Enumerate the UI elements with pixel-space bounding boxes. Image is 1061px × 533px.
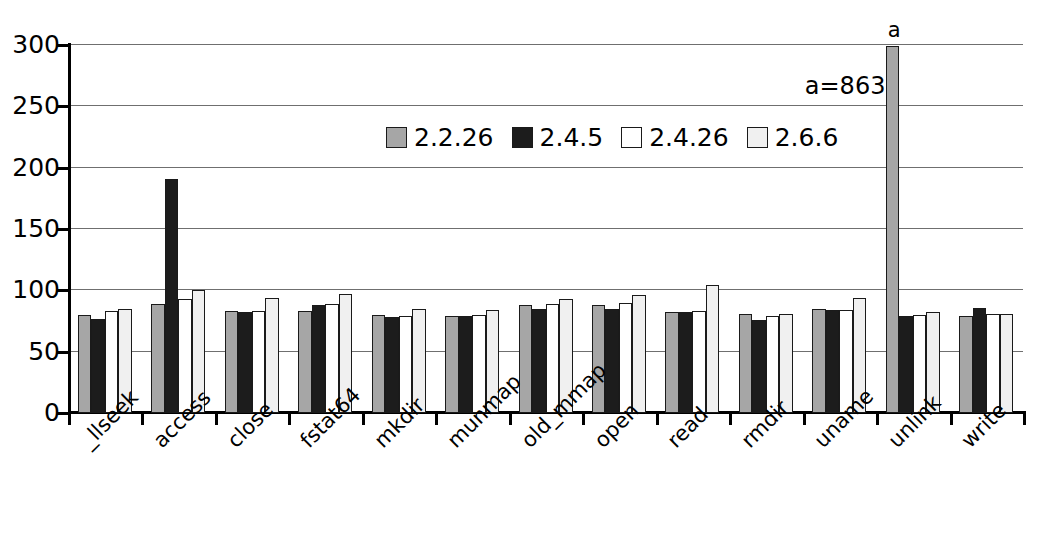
bar-group bbox=[372, 45, 426, 413]
legend-item: 2.4.26 bbox=[621, 125, 729, 150]
y-tick-label: 0 bbox=[0, 400, 60, 425]
legend-label: 2.4.5 bbox=[540, 125, 604, 150]
bar bbox=[252, 311, 266, 413]
annotation-note: a=863 bbox=[805, 74, 886, 98]
bar-group bbox=[886, 45, 940, 413]
bar bbox=[298, 311, 312, 413]
bar bbox=[78, 315, 92, 413]
annotation-marker: a bbox=[888, 20, 901, 41]
x-tick-mark bbox=[435, 414, 438, 425]
y-tick-label: 150 bbox=[0, 216, 60, 241]
x-tick-mark bbox=[876, 414, 879, 425]
x-tick-mark bbox=[582, 414, 585, 425]
x-tick-mark bbox=[68, 414, 71, 425]
bar bbox=[886, 46, 900, 413]
x-tick-mark bbox=[656, 414, 659, 425]
bar bbox=[385, 317, 399, 413]
bar bbox=[812, 309, 826, 413]
legend-item: 2.2.26 bbox=[386, 125, 494, 150]
bar bbox=[679, 312, 693, 413]
legend: 2.2.262.4.52.4.262.6.6 bbox=[386, 125, 856, 150]
x-tick-mark bbox=[509, 414, 512, 425]
y-tick-label: 300 bbox=[0, 32, 60, 57]
y-tick-label: 50 bbox=[0, 339, 60, 364]
x-tick-mark bbox=[362, 414, 365, 425]
bar bbox=[779, 314, 793, 413]
bar-group bbox=[151, 45, 205, 413]
bar-group bbox=[812, 45, 866, 413]
legend-swatch-icon bbox=[386, 127, 407, 148]
bar-group bbox=[519, 45, 573, 413]
bar bbox=[165, 179, 179, 413]
y-tick-label: 200 bbox=[0, 155, 60, 180]
bar-group bbox=[298, 45, 352, 413]
x-tick-mark bbox=[141, 414, 144, 425]
x-tick-mark bbox=[1023, 414, 1026, 425]
bar-group bbox=[739, 45, 793, 413]
bar bbox=[959, 316, 973, 413]
legend-label: 2.2.26 bbox=[414, 125, 494, 150]
legend-item: 2.6.6 bbox=[747, 125, 839, 150]
bar bbox=[151, 304, 165, 413]
bar bbox=[619, 303, 633, 413]
bar-group bbox=[665, 45, 719, 413]
y-tick-label: 100 bbox=[0, 277, 60, 302]
bar bbox=[445, 316, 459, 413]
bar bbox=[238, 312, 252, 413]
legend-swatch-icon bbox=[747, 127, 768, 148]
bar bbox=[459, 316, 473, 413]
bar-group bbox=[592, 45, 646, 413]
bar-group bbox=[445, 45, 499, 413]
bar bbox=[605, 309, 619, 413]
bar bbox=[372, 315, 386, 413]
bar bbox=[265, 298, 279, 413]
bar bbox=[665, 312, 679, 413]
x-tick-mark bbox=[803, 414, 806, 425]
legend-swatch-icon bbox=[512, 127, 533, 148]
bar-chart: 050100150200250300 _llseekaccessclosefst… bbox=[0, 0, 1061, 533]
y-tick-label: 250 bbox=[0, 93, 60, 118]
bar bbox=[706, 285, 720, 413]
bar bbox=[973, 308, 987, 413]
x-tick-mark bbox=[288, 414, 291, 425]
legend-swatch-icon bbox=[621, 127, 642, 148]
bar bbox=[752, 320, 766, 413]
x-tick-mark bbox=[729, 414, 732, 425]
plot-area bbox=[68, 45, 1023, 413]
legend-item: 2.4.5 bbox=[512, 125, 604, 150]
bar bbox=[899, 316, 913, 413]
bar bbox=[632, 295, 646, 413]
bar-group bbox=[78, 45, 132, 413]
x-tick-mark bbox=[950, 414, 953, 425]
bar bbox=[739, 314, 753, 413]
bar bbox=[1000, 314, 1014, 413]
bar-group bbox=[959, 45, 1013, 413]
x-tick-mark bbox=[215, 414, 218, 425]
legend-label: 2.4.26 bbox=[649, 125, 729, 150]
legend-label: 2.6.6 bbox=[775, 125, 839, 150]
bar bbox=[519, 305, 533, 413]
bar bbox=[91, 319, 105, 413]
bar bbox=[532, 309, 546, 413]
bar bbox=[692, 311, 706, 413]
bar bbox=[312, 305, 326, 413]
bar-group bbox=[225, 45, 279, 413]
bar bbox=[225, 311, 239, 413]
bar bbox=[826, 310, 840, 413]
